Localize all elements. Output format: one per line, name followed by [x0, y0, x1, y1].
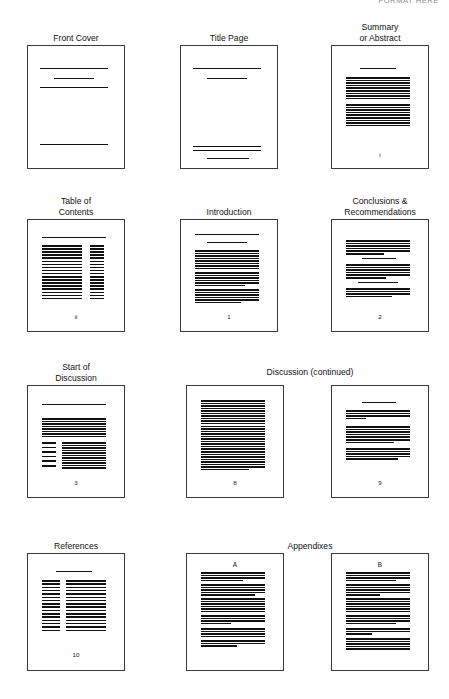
page-content-front-cover [28, 46, 124, 168]
page-content-discussion-page-8: 8 [187, 386, 283, 497]
body-rule-b2-l8 [62, 462, 106, 464]
body-rule-b2-l5 [62, 455, 106, 457]
body-rule-b2-l0 [346, 104, 410, 106]
body-rule-b0-l9 [201, 423, 265, 425]
heading-rule-3 [40, 144, 108, 145]
body-rule-b0-l0 [201, 572, 265, 574]
heading-rule-2 [193, 146, 261, 147]
body-rule-b0-l3 [346, 248, 410, 250]
body-rule-b2-l1 [201, 601, 265, 603]
body-rule-b0-l20 [201, 451, 265, 453]
page-caption-table-of-contents: Table of Contents [27, 196, 125, 217]
body-rule-b1-l5 [90, 261, 104, 263]
body-rule-b0-l0 [201, 400, 265, 402]
body-rule-b1-l8 [90, 270, 104, 272]
page-rect-appendix-b: B [331, 553, 429, 671]
body-rule-b1-l1 [66, 583, 106, 585]
body-rule-b1-l0 [90, 245, 104, 247]
body-rule-b0-l6 [42, 600, 60, 602]
page-rect-conclusions-recommendations: 2 [331, 219, 429, 332]
body-rule-b1-l12 [66, 620, 106, 622]
body-rule-b1-l4 [42, 460, 56, 462]
body-rule-b1-l3 [90, 254, 104, 256]
body-rule-b1-l0 [346, 584, 410, 586]
body-rule-b0-l4 [42, 428, 106, 430]
body-rule-b1-l5 [195, 285, 245, 287]
heading-rule-0 [193, 68, 261, 69]
body-rule-b0-l7 [42, 603, 60, 605]
body-rule-b0-l0 [42, 245, 82, 247]
page-content-discussion-page-9: 9 [332, 386, 428, 497]
body-rule-b0-l0 [360, 68, 396, 69]
body-rule-b2-l1 [346, 601, 410, 603]
body-rule-b2-l5 [346, 117, 410, 119]
body-rule-b0-l2 [42, 587, 60, 589]
body-rule-b0-l0 [195, 250, 259, 252]
body-rule-b0-l11 [42, 279, 82, 281]
body-rule-b0-l0 [42, 418, 106, 420]
page-caption-front-cover: Front Cover [27, 33, 125, 44]
page-caption-conclusions-recommendations: Conclusions & Recommendations [331, 196, 429, 217]
body-rule-b2-l5 [346, 277, 386, 279]
body-rule-b0-l1 [201, 403, 265, 405]
body-rule-b1-l5 [42, 465, 56, 467]
heading-rule-4 [207, 158, 249, 159]
body-rule-b0-l1 [201, 575, 265, 577]
folio-introduction: 1 [181, 313, 277, 320]
body-rule-b1-l6 [346, 442, 394, 444]
body-rule-b1-l14 [66, 626, 106, 628]
body-rule-b0-l7 [195, 268, 259, 270]
body-rule-b0-l2 [346, 577, 410, 579]
body-rule-b4-l1 [201, 631, 265, 633]
body-rule-b0-l26 [201, 466, 265, 468]
heading-rule-1 [207, 242, 247, 243]
body-rule-b3-l0 [201, 615, 265, 617]
body-rule-b1-l1 [346, 429, 410, 431]
body-rule-b2-l4 [346, 114, 410, 116]
body-rule-b2-l2 [195, 294, 259, 296]
body-rule-b3-l3 [201, 623, 231, 625]
body-rule-b1-l11 [66, 616, 106, 618]
folio-references: 10 [28, 651, 124, 658]
body-rule-b1-l0 [201, 584, 265, 586]
body-rule-b4-l2 [346, 293, 410, 295]
body-rule-b0-l7 [42, 436, 106, 438]
body-rule-b2-l4 [346, 274, 410, 276]
heading-rule-0 [40, 68, 108, 69]
body-rule-b4-l0 [201, 628, 265, 630]
body-rule-b0-l2 [346, 415, 410, 417]
folio-start-of-discussion: 3 [28, 479, 124, 486]
body-rule-b0-l6 [195, 265, 259, 267]
body-rule-b4-l3 [201, 636, 265, 638]
body-rule-b0-l15 [42, 630, 60, 632]
body-rule-b0-l10 [42, 613, 60, 615]
body-rule-b0-l3 [42, 426, 106, 428]
body-rule-b3-l0 [346, 615, 410, 617]
body-rule-b1-l1 [346, 587, 410, 589]
body-rule-b2-l10 [62, 467, 106, 469]
body-rule-b4-l0 [346, 288, 410, 290]
body-rule-b2-l3 [346, 112, 410, 114]
body-rule-b1-l10 [90, 276, 104, 278]
body-rule-b0-l16 [42, 295, 82, 297]
page-rect-start-of-discussion: 3 [27, 385, 125, 498]
body-rule-b4-l1 [346, 291, 410, 293]
body-rule-b2-l3 [195, 297, 259, 299]
heading-rule-0 [56, 571, 92, 572]
group-caption-0: Discussion (continued) [170, 367, 449, 378]
body-rule-b1-l3 [346, 434, 410, 436]
page-rect-table-of-contents: ii [27, 219, 125, 332]
body-rule-b0-l17 [42, 298, 82, 300]
body-rule-b0-l4 [42, 257, 82, 259]
body-rule-b0-l9 [42, 610, 60, 612]
body-rule-b1-l5 [346, 90, 410, 92]
body-rule-b1-l4 [195, 282, 259, 284]
heading-rule-0 [362, 402, 396, 403]
page-content-summary-abstract: i [332, 46, 428, 168]
body-rule-b1-l1 [201, 587, 265, 589]
body-rule-b0-l1 [346, 413, 410, 415]
sheet-label-appendix-a: A [187, 561, 283, 568]
body-rule-b0-l14 [42, 288, 82, 290]
body-rule-b1-l1 [195, 275, 259, 277]
body-rule-b0-l12 [42, 282, 82, 284]
